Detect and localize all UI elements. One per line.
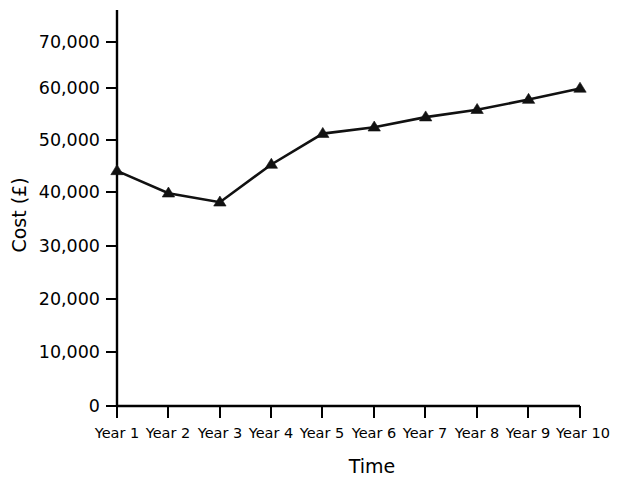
x-tick-label-5: Year 5 — [299, 425, 345, 441]
y-tick-label-20000: 20,000 — [39, 289, 100, 309]
y-tick-label-60000: 60,000 — [39, 78, 100, 98]
data-point-marker — [111, 165, 123, 175]
x-tick-label-4: Year 4 — [248, 425, 294, 441]
y-tick-label-0: 0 — [89, 396, 100, 416]
x-tick-label-6: Year 6 — [351, 425, 397, 441]
series-line-cost — [117, 88, 580, 202]
x-tick-label-10: Year 10 — [555, 425, 610, 441]
x-axis-title: Time — [348, 455, 396, 477]
line-chart: 70,000 60,000 50,000 40,000 30,000 20,00… — [0, 0, 632, 493]
x-tick-label-1: Year 1 — [94, 425, 140, 441]
y-tick-label-50000: 50,000 — [39, 130, 100, 150]
series-markers-cost — [111, 82, 586, 206]
chart-canvas: 70,000 60,000 50,000 40,000 30,000 20,00… — [0, 0, 632, 493]
x-axis-tick-labels: Year 1 Year 2 Year 3 Year 4 Year 5 Year … — [94, 425, 610, 441]
y-axis-ticks — [106, 42, 117, 406]
y-axis-title: Cost (£) — [8, 177, 30, 252]
x-tick-label-9: Year 9 — [505, 425, 551, 441]
x-tick-label-8: Year 8 — [454, 425, 500, 441]
y-tick-label-10000: 10,000 — [39, 342, 100, 362]
x-axis-ticks — [117, 406, 580, 418]
data-point-marker — [574, 82, 586, 92]
y-tick-label-30000: 30,000 — [39, 236, 100, 256]
y-tick-label-70000: 70,000 — [39, 32, 100, 52]
x-tick-label-2: Year 2 — [145, 425, 191, 441]
y-tick-label-40000: 40,000 — [39, 182, 100, 202]
y-axis-tick-labels: 70,000 60,000 50,000 40,000 30,000 20,00… — [39, 32, 100, 416]
x-tick-label-7: Year 7 — [402, 425, 448, 441]
x-tick-label-3: Year 3 — [197, 425, 243, 441]
